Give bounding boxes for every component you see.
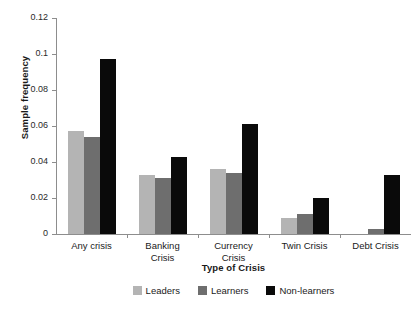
y-axis-tick: 0.1 — [52, 54, 56, 55]
x-axis-category-label: Debt Crisis — [340, 240, 411, 252]
legend-label: Non-learners — [279, 285, 334, 296]
bar — [210, 169, 226, 234]
x-axis-line — [56, 234, 411, 235]
y-axis-tick: 0.12 — [52, 18, 56, 19]
bar-group — [281, 18, 329, 234]
bar — [84, 137, 100, 234]
bar — [68, 131, 84, 234]
legend-label: Leaders — [146, 285, 180, 296]
y-axis-tick-label: 0.04 — [30, 156, 48, 166]
plot-area: 00.020.040.060.080.10.12 Any crisisBanki… — [56, 18, 411, 234]
bar — [384, 175, 400, 234]
x-axis-tick — [269, 234, 270, 238]
bar-chart: Sample frequency 00.020.040.060.080.10.1… — [0, 0, 418, 310]
x-axis-category-label: Any crisis — [56, 240, 127, 252]
y-axis-tick-label: 0.06 — [30, 120, 48, 130]
y-axis-tick-label: 0.1 — [35, 48, 48, 58]
legend-item: Non-learners — [266, 285, 334, 296]
bar-group — [210, 18, 258, 234]
y-axis-tick-label: 0.12 — [30, 12, 48, 22]
bar — [226, 173, 242, 234]
y-axis-line — [56, 18, 57, 235]
bar — [242, 124, 258, 234]
bar — [100, 59, 116, 234]
legend-color-swatch — [266, 286, 275, 295]
legend-label: Learners — [211, 285, 249, 296]
bar-group — [68, 18, 116, 234]
y-axis-tick: 0 — [52, 234, 56, 235]
x-axis-tick — [198, 234, 199, 238]
y-axis-tick: 0.06 — [52, 126, 56, 127]
bar — [155, 178, 171, 234]
legend-color-swatch — [133, 286, 142, 295]
y-axis-tick: 0.04 — [52, 162, 56, 163]
x-axis-title: Type of Crisis — [56, 262, 411, 273]
bar-group — [139, 18, 187, 234]
legend-color-swatch — [198, 286, 207, 295]
x-axis-category-label: Banking Crisis — [127, 240, 198, 263]
x-axis-tick — [127, 234, 128, 238]
bar — [139, 175, 155, 234]
x-axis-tick — [340, 234, 341, 238]
legend-item: Leaders — [133, 285, 180, 296]
y-axis-tick: 0.02 — [52, 198, 56, 199]
bar-group — [352, 18, 400, 234]
bar — [313, 198, 329, 234]
bar — [171, 157, 187, 234]
y-axis-tick-label: 0.08 — [30, 84, 48, 94]
x-axis-category-label: Currency Crisis — [198, 240, 269, 263]
bar — [297, 214, 313, 234]
y-axis-tick-label: 0.02 — [30, 192, 48, 202]
y-axis-tick: 0.08 — [52, 90, 56, 91]
bar — [281, 218, 297, 234]
bar — [368, 229, 384, 234]
chart-legend: LeadersLearnersNon-learners — [56, 285, 411, 296]
legend-item: Learners — [198, 285, 249, 296]
y-axis-tick-label: 0 — [43, 228, 48, 238]
x-axis-category-label: Twin Crisis — [269, 240, 340, 252]
y-axis-title: Sample frequency — [19, 28, 30, 168]
